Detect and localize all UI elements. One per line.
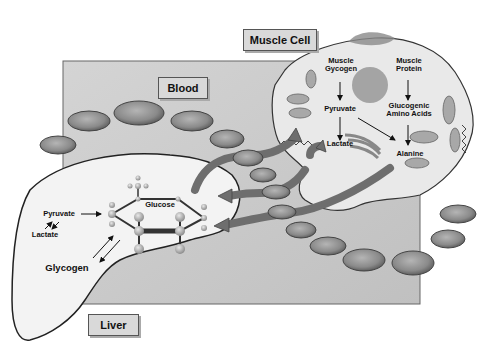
red-blood-cell (210, 130, 244, 148)
red-blood-cell (392, 251, 434, 275)
red-blood-cell (310, 237, 346, 255)
mitochondrion (289, 108, 311, 118)
muscle-cell (272, 38, 473, 211)
glucose-label: Glucose (141, 201, 179, 209)
muscle-cell-label: Muscle Cell (243, 29, 317, 51)
liver-lactate-label: Lactate (27, 231, 63, 239)
muscle-pyruvate-label: Pyruvate (318, 105, 362, 113)
red-blood-cell (286, 222, 316, 238)
red-blood-cell (171, 111, 213, 131)
diagram-canvas (0, 0, 500, 357)
muscle-lactate-label: Lactate (320, 140, 360, 148)
amino-line2: Amino Acids (380, 110, 438, 118)
alanine-label: Alanine (392, 150, 428, 158)
red-blood-cell (40, 136, 76, 154)
red-blood-cell (68, 111, 110, 131)
mitochondrion (443, 96, 455, 124)
diagram: Muscle Cell Blood Liver Muscle Gycogen M… (0, 0, 500, 357)
muscle-protein-line2: Protein (388, 65, 430, 73)
liver-glycogen-label: Glycogen (40, 263, 94, 273)
mitochondrion (306, 70, 316, 88)
transporter (262, 185, 290, 199)
red-blood-cell (343, 249, 385, 271)
mitochondrion (410, 131, 438, 143)
glucogenic-amino-acids-label: Glucogenic Amino Acids (380, 102, 438, 118)
transporter (268, 205, 296, 219)
red-blood-cell (114, 101, 164, 125)
muscle-protein-label: Muscle Protein (388, 57, 430, 73)
red-blood-cell (440, 205, 476, 223)
muscle-glycogen-label: Muscle Gycogen (320, 57, 362, 73)
mitochondrion (287, 94, 309, 104)
liver-pyruvate-label: Pyruvate (39, 210, 79, 218)
mitochondrion (405, 158, 429, 168)
transporter (233, 150, 263, 166)
blood-label: Blood (158, 77, 208, 99)
mitochondrion (450, 128, 460, 152)
liver-label: Liver (88, 314, 139, 336)
red-blood-cell (250, 168, 276, 182)
muscle-glycogen-line2: Gycogen (320, 65, 362, 73)
red-blood-cell (431, 230, 465, 248)
